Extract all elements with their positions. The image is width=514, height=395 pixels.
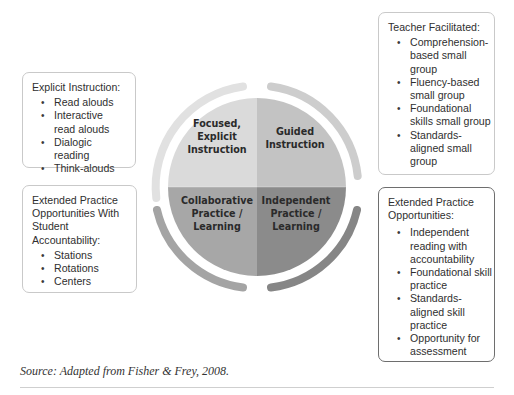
extended-practice-box: Extended Practice Opportunities: Indepen… [378, 187, 495, 362]
label-line: Guided [252, 125, 338, 138]
bullet-list: Independent reading with accountability … [388, 226, 487, 358]
list-item: Foundational skills small group [410, 102, 492, 128]
label-line: Independent [253, 194, 339, 207]
label-line: Learning [174, 220, 260, 233]
list-item: Dialogic reading [54, 136, 128, 162]
teacher-facilitated-box: Teacher Facilitated: Comprehension-based… [378, 12, 495, 175]
box-title: Extended Practice Opportunities: [388, 196, 488, 222]
list-item: Opportunity for assessment [410, 332, 486, 358]
list-item: Rotations [54, 262, 129, 275]
list-item: Centers [54, 275, 129, 288]
list-item: Read alouds [54, 96, 128, 109]
list-item: Foundational skill practice [410, 266, 492, 292]
horizontal-rule [20, 387, 494, 388]
bullet-list: Comprehension-based small group Fluency-… [388, 36, 487, 168]
label-line: Collaborative [174, 194, 260, 207]
bullet-list: Read alouds Interactive read alouds Dial… [32, 96, 128, 175]
label-line: Instruction [174, 143, 260, 156]
list-item: Fluency-based small group [410, 76, 482, 102]
label-line: Learning [253, 220, 339, 233]
list-item: Independent reading with accountability [410, 226, 482, 266]
label-line: Practice / [253, 207, 339, 220]
list-item: Comprehension-based small group [410, 36, 490, 76]
label-collaborative-practice: Collaborative Practice / Learning [174, 194, 260, 233]
label-focused-explicit-instruction: Focused, Explicit Instruction [174, 117, 260, 156]
label-line: Practice / [174, 207, 260, 220]
quadrant-circle-graphic [140, 70, 374, 304]
list-item: Stations [54, 249, 129, 262]
student-accountability-box: Extended Practice Opportunities With Stu… [22, 185, 137, 293]
list-item: Think-alouds [54, 162, 128, 175]
label-line: Focused, [174, 117, 260, 130]
source-caption: Source: Adapted from Fisher & Frey, 2008… [20, 364, 229, 379]
box-title: Teacher Facilitated: [388, 21, 487, 34]
explicit-instruction-box: Explicit Instruction: Read alouds Intera… [22, 72, 136, 168]
list-item: Interactive read alouds [54, 109, 112, 135]
list-item: Standards-aligned skill practice [410, 292, 476, 332]
instruction-model-diagram: Focused, Explicit Instruction Guided Ins… [140, 70, 374, 304]
bullet-list: Stations Rotations Centers [32, 249, 129, 289]
label-guided-instruction: Guided Instruction [252, 125, 338, 151]
list-item: Standards-aligned small group [410, 129, 472, 169]
box-title: Explicit Instruction: [32, 81, 128, 94]
label-line: Instruction [252, 138, 338, 151]
label-independent-practice: Independent Practice / Learning [253, 194, 339, 233]
box-title: Extended Practice Opportunities With Stu… [32, 194, 122, 247]
label-line: Explicit [174, 130, 260, 143]
